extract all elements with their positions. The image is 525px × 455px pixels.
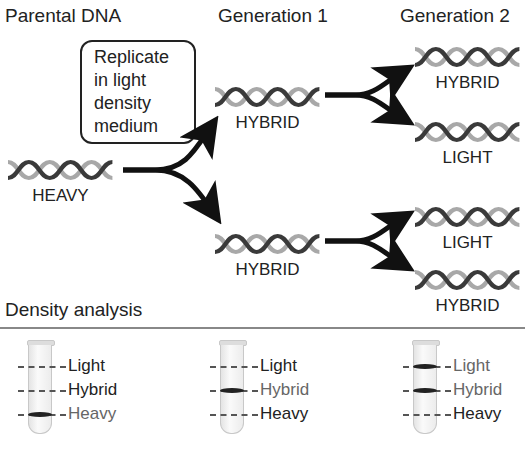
light-label: Light [260, 356, 297, 376]
arrow-to-gen1-bottom [123, 170, 213, 212]
heavy-band [28, 412, 52, 417]
section-divider [0, 327, 525, 329]
light-marker [18, 366, 66, 368]
light-label: Light [453, 356, 490, 376]
arrow-to-gen1-top [123, 128, 210, 170]
heavy-marker [403, 414, 451, 416]
hybrid-label: Hybrid [453, 380, 502, 400]
arrow-to-gen2-1 [325, 72, 402, 95]
hybrid-label: Hybrid [260, 380, 309, 400]
light-band [413, 364, 437, 369]
hybrid-band [220, 388, 244, 393]
arrow-to-gen2-2 [325, 95, 402, 118]
light-label: Light [68, 356, 105, 376]
replication-arrows [0, 0, 525, 320]
heavy-label: Heavy [260, 404, 308, 424]
hybrid-label: Hybrid [68, 380, 117, 400]
heavy-marker [210, 414, 258, 416]
heavy-label: Heavy [68, 404, 116, 424]
light-marker [210, 366, 258, 368]
hybrid-marker [18, 390, 66, 392]
hybrid-band [413, 388, 437, 393]
arrow-to-gen2-3 [325, 218, 402, 241]
heavy-label: Heavy [453, 404, 501, 424]
arrow-to-gen2-4 [325, 241, 402, 264]
density-analysis-header: Density analysis [5, 299, 142, 321]
